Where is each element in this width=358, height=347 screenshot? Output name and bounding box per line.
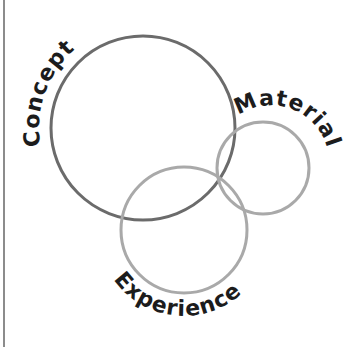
experience-circle (121, 167, 247, 293)
venn-diagram: Concept Material Experience (0, 0, 358, 347)
concept-circle (51, 36, 235, 220)
venn-svg: Concept Material Experience (0, 0, 358, 347)
material-circle (217, 122, 309, 214)
concept-label: Concept (19, 34, 79, 148)
material-label: Material (230, 85, 346, 150)
